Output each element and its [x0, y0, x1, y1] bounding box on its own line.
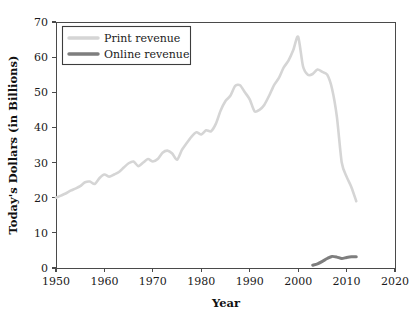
series-line-online-revenue	[313, 256, 357, 265]
y-tick-label: 20	[34, 192, 48, 205]
y-tick-label: 40	[34, 121, 48, 134]
legend-label-print-revenue: Print revenue	[104, 32, 180, 45]
x-tick-label: 2000	[284, 275, 312, 288]
x-tick-label: 2010	[333, 275, 361, 288]
y-tick-label: 50	[34, 86, 48, 99]
x-tick-label: 1960	[90, 275, 118, 288]
series-layer	[56, 37, 356, 266]
y-tick-label: 0	[41, 262, 48, 275]
x-tick-label: 1980	[187, 275, 215, 288]
y-axis-title: Today's Dollars (in Billions)	[6, 56, 20, 235]
y-tick-label: 30	[34, 157, 48, 170]
y-tick-label: 70	[34, 16, 48, 29]
legend-label-online-revenue: Online revenue	[104, 48, 189, 61]
x-axis-ticks: 19501960197019801990200020102020	[42, 268, 409, 288]
x-axis-title: Year	[211, 296, 241, 310]
x-tick-label: 1990	[236, 275, 264, 288]
revenue-line-chart: 010203040506070 195019601970198019902000…	[0, 0, 420, 319]
chart-canvas: 010203040506070 195019601970198019902000…	[0, 0, 420, 319]
x-tick-label: 1970	[139, 275, 167, 288]
chart-legend: Print revenue Online revenue	[63, 27, 191, 65]
x-tick-label: 1950	[42, 275, 70, 288]
y-tick-label: 10	[34, 227, 48, 240]
y-tick-label: 60	[34, 51, 48, 64]
x-tick-label: 2020	[381, 275, 409, 288]
y-axis-ticks: 010203040506070	[34, 16, 56, 275]
